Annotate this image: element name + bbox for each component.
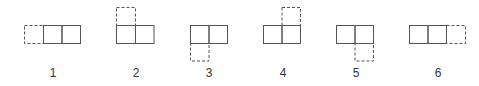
domino-cell <box>62 26 81 44</box>
domino-cell <box>337 26 356 44</box>
figure-label-4: 4 <box>273 66 293 80</box>
figure-1 <box>25 26 81 44</box>
figure-6 <box>410 26 466 44</box>
domino-cell <box>117 26 136 44</box>
domino-cell <box>209 26 228 44</box>
figure-label-3: 3 <box>199 66 219 80</box>
figure-label-1: 1 <box>43 66 63 80</box>
figure-3 <box>191 26 228 62</box>
figure-label-2: 2 <box>126 66 146 80</box>
added-cell-dashed <box>117 8 136 26</box>
diagram-canvas <box>0 0 479 86</box>
domino-cell <box>136 26 155 44</box>
domino-cell <box>44 26 63 44</box>
figure-4 <box>264 8 301 44</box>
figure-2 <box>117 8 155 44</box>
domino-cell <box>355 26 374 44</box>
domino-cell <box>264 26 283 44</box>
added-cell-dashed <box>25 26 44 44</box>
added-cell-dashed <box>355 44 374 62</box>
domino-cell <box>428 26 447 44</box>
domino-cell <box>410 26 429 44</box>
domino-cell <box>191 26 210 44</box>
figure-label-5: 5 <box>346 66 366 80</box>
added-cell-dashed <box>191 44 210 62</box>
figure-5 <box>337 26 374 62</box>
added-cell-dashed <box>447 26 466 44</box>
added-cell-dashed <box>282 8 301 26</box>
figure-label-6: 6 <box>428 66 448 80</box>
domino-cell <box>282 26 301 44</box>
